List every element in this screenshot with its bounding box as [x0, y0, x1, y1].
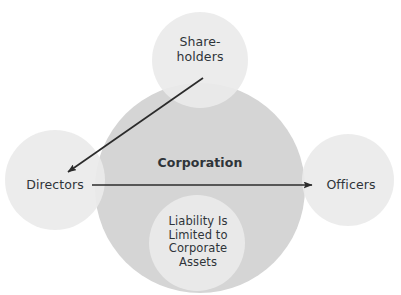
- diagram-canvas: [0, 0, 401, 295]
- officers-circle: [302, 134, 394, 226]
- directors-circle: [5, 130, 105, 230]
- circles-layer: [5, 12, 394, 293]
- corporation-structure-diagram: Share- holders Corporation Directors Off…: [0, 0, 401, 295]
- liability-circle: [149, 195, 245, 291]
- shareholders-circle: [152, 12, 248, 108]
